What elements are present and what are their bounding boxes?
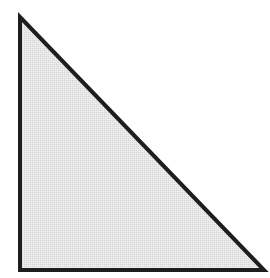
diagram-canvas xyxy=(0,0,270,278)
